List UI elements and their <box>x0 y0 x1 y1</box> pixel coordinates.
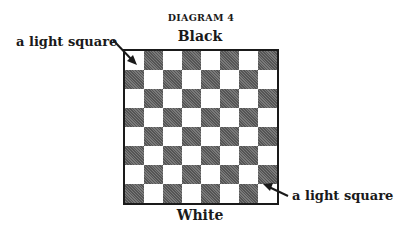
arrow-icon-top-left <box>113 40 137 65</box>
arrow-icon-bottom-right <box>263 183 288 196</box>
callout-arrows <box>0 0 402 235</box>
